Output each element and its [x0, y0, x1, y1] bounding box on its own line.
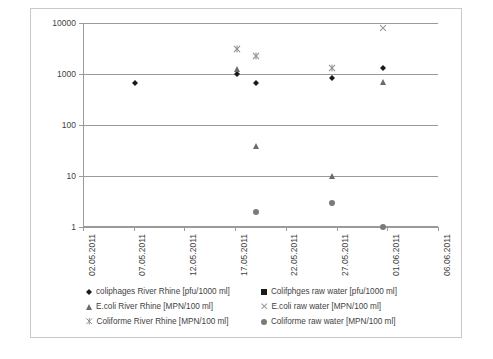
legend-item-label: E.coli River Rhine [MPN/100 ml]: [96, 302, 213, 311]
data-point: [253, 143, 259, 149]
data-point: [253, 209, 259, 215]
x-axis-tick: [83, 227, 84, 231]
data-point: [328, 65, 335, 72]
legend-item-label: Coliforme raw water [MPN/100 ml]: [271, 317, 396, 326]
x-axis-tick: [286, 227, 287, 231]
data-point: [380, 24, 387, 31]
legend-item-label: coliphages River Rhine [pfu/1000 ml]: [96, 287, 230, 296]
legend-item-label: Colifphges raw water [pfu/1000 ml]: [271, 287, 397, 296]
data-point: [380, 65, 386, 71]
x-icon: [261, 303, 268, 310]
gridline: [83, 125, 438, 126]
legend-item[interactable]: E.coli River Rhine [MPN/100 ml]: [86, 302, 249, 311]
legend-item-label: E.coli raw water [MPN/100 ml]: [271, 302, 381, 311]
x-axis-tick: [438, 227, 439, 231]
plot-area: 100001000100101 02.05.201107.05.201112.0…: [83, 23, 438, 227]
asterisk-icon: [86, 318, 93, 325]
y-axis-tick-label: 1000: [57, 69, 76, 79]
legend-item[interactable]: Coliforme raw water [MPN/100 ml]: [261, 317, 416, 326]
data-point: [234, 66, 240, 72]
data-point: [380, 79, 386, 85]
x-axis-tick-label: 07.05.2011: [137, 234, 147, 276]
x-axis-tick: [387, 227, 388, 231]
y-axis-tick-label: 10000: [52, 18, 76, 28]
y-axis-tick-label: 100: [62, 120, 76, 130]
x-axis-tick-label: 02.05.2011: [87, 234, 97, 276]
x-axis-tick: [134, 227, 135, 231]
data-point: [253, 52, 260, 59]
x-axis-tick-label: 06.06.2011: [442, 234, 452, 276]
x-axis-tick-label: 17.05.2011: [239, 234, 249, 276]
y-axis-tick: [79, 23, 83, 24]
data-point: [132, 80, 138, 86]
x-axis-tick: [337, 227, 338, 231]
gridline: [83, 176, 438, 177]
square-icon: [261, 289, 267, 295]
diamond-icon: [86, 289, 92, 295]
y-axis-tick-label: 1: [71, 222, 76, 232]
x-axis-tick-label: 12.05.2011: [188, 234, 198, 276]
data-point: [234, 45, 241, 52]
legend-item[interactable]: E.coli raw water [MPN/100 ml]: [261, 302, 416, 311]
y-axis-tick-label: 10: [67, 171, 76, 181]
legend-item[interactable]: Colifphges raw water [pfu/1000 ml]: [261, 287, 416, 296]
x-axis-tick: [184, 227, 185, 231]
data-point: [329, 75, 335, 81]
data-point: [253, 80, 259, 86]
legend-item[interactable]: Coliforme River Rhine [MPN/100 ml]: [86, 317, 249, 326]
data-point: [380, 224, 386, 230]
y-axis-tick: [79, 74, 83, 75]
triangle-icon: [86, 304, 92, 310]
x-axis-tick-label: 22.05.2011: [289, 234, 299, 276]
gridline: [83, 74, 438, 75]
x-axis-tick-label: 27.05.2011: [340, 234, 350, 276]
legend-item-label: Coliforme River Rhine [MPN/100 ml]: [97, 317, 229, 326]
circle-icon: [261, 319, 267, 325]
data-point: [329, 200, 335, 206]
legend-item[interactable]: coliphages River Rhine [pfu/1000 ml]: [86, 287, 249, 296]
x-axis-tick-label: 01.06.2011: [391, 234, 401, 276]
y-axis-tick: [79, 176, 83, 177]
x-axis-tick: [235, 227, 236, 231]
chart-legend: coliphages River Rhine [pfu/1000 ml]Coli…: [86, 287, 416, 326]
chart-figure: 100001000100101 02.05.201107.05.201112.0…: [30, 8, 462, 338]
y-axis-tick: [79, 125, 83, 126]
data-point: [329, 173, 335, 179]
